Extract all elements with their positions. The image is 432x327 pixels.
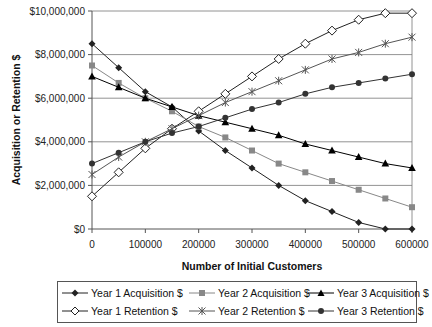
line-chart: $0$2,000,000$4,000,000$6,000,000$8,000,0… bbox=[0, 0, 432, 327]
y-tick-label: $4,000,000 bbox=[35, 136, 85, 147]
chart-legend: Year 1 Acquisition $ Year 2 Acquisition … bbox=[57, 281, 417, 323]
legend-item-year2-acquisition: Year 2 Acquisition $ bbox=[189, 286, 310, 300]
legend-item-year3-acquisition: Year 3 Acquisition $ bbox=[308, 286, 429, 300]
triangle-marker-icon bbox=[308, 288, 334, 298]
x-tick-label: 200000 bbox=[182, 239, 216, 250]
x-tick-label: 100000 bbox=[129, 239, 163, 250]
legend-label: Year 3 Acquisition $ bbox=[337, 287, 429, 299]
y-tick-label: $0 bbox=[74, 224, 86, 235]
legend-item-year3-retention: Year 3 Retention $ bbox=[308, 304, 424, 318]
legend-item-year2-retention: Year 2 Retention $ bbox=[189, 304, 305, 318]
legend-label: Year 1 Retention $ bbox=[91, 305, 178, 317]
y-tick-label: $2,000,000 bbox=[35, 180, 85, 191]
x-tick-label: 400000 bbox=[289, 239, 323, 250]
legend-item-year1-retention: Year 1 Retention $ bbox=[62, 304, 178, 318]
diamond-filled-marker-icon bbox=[62, 288, 88, 298]
legend-label: Year 2 Retention $ bbox=[218, 305, 305, 317]
x-tick-label: 600000 bbox=[395, 239, 429, 250]
series-year-1-retention bbox=[88, 9, 417, 201]
circle-marker-icon bbox=[308, 306, 334, 316]
x-tick-label: 0 bbox=[89, 239, 95, 250]
x-tick-label: 300000 bbox=[235, 239, 269, 250]
diamond-open-marker-icon bbox=[62, 306, 88, 316]
data-series bbox=[88, 9, 417, 233]
axes: $0$2,000,000$4,000,000$6,000,000$8,000,0… bbox=[29, 6, 429, 251]
gridlines bbox=[92, 11, 412, 185]
legend-label: Year 3 Retention $ bbox=[337, 305, 424, 317]
x-axis-title: Number of Initial Customers bbox=[182, 260, 323, 272]
x-tick-label: 500000 bbox=[342, 239, 376, 250]
legend-label: Year 2 Acquisition $ bbox=[218, 287, 310, 299]
y-axis-title: Acquisition or Retention $ bbox=[10, 55, 22, 186]
legend-item-year1-acquisition: Year 1 Acquisition $ bbox=[62, 286, 183, 300]
legend-label: Year 1 Acquisition $ bbox=[91, 287, 183, 299]
y-tick-label: $8,000,000 bbox=[35, 49, 85, 60]
y-tick-label: $10,000,000 bbox=[29, 6, 85, 17]
asterisk-marker-icon bbox=[189, 306, 215, 316]
series-year-1-acquisition bbox=[89, 40, 416, 232]
square-marker-icon bbox=[189, 288, 215, 298]
y-tick-label: $6,000,000 bbox=[35, 93, 85, 104]
